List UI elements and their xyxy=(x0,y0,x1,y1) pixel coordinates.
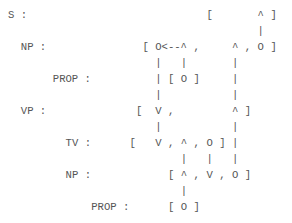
node-label: PROP : xyxy=(53,71,91,87)
feature-glyph: ] xyxy=(270,39,276,55)
feature-glyph: [ xyxy=(168,199,174,215)
connector-line: | xyxy=(232,119,238,135)
feature-glyph: [ xyxy=(130,135,136,151)
tree-node-row: PROP :|[O]| xyxy=(0,71,292,87)
tree-node-row: TV :[V,^,O]| xyxy=(0,135,292,151)
feature-glyph: O xyxy=(181,71,187,87)
connector-row: | xyxy=(0,183,292,199)
feature-glyph: [ xyxy=(136,103,142,119)
connector-line: | xyxy=(181,151,187,167)
feature-glyph: V xyxy=(206,167,212,183)
feature-glyph: ^ xyxy=(232,39,238,55)
feature-glyph: V xyxy=(155,103,161,119)
feature-glyph: ] xyxy=(270,7,276,23)
connector-row: ||| xyxy=(0,55,292,71)
tree-node-row: PROP :[O] xyxy=(0,199,292,215)
feature-glyph: , xyxy=(168,103,174,119)
feature-glyph: , xyxy=(168,135,174,151)
feature-glyph: O xyxy=(258,39,264,55)
connector-line: | xyxy=(232,151,238,167)
feature-glyph: V xyxy=(155,135,161,151)
node-label: NP : xyxy=(21,39,46,55)
node-label: NP : xyxy=(66,167,91,183)
node-label: VP : xyxy=(21,103,46,119)
feature-glyph: ] xyxy=(194,199,200,215)
feature-glyph: [ xyxy=(142,39,148,55)
feature-glyph: ] xyxy=(194,71,200,87)
feature-glyph: O xyxy=(181,199,187,215)
connector-line: | xyxy=(258,23,264,39)
connector-row: || xyxy=(0,119,292,135)
connector-row: | xyxy=(0,23,292,39)
tree-node-row: NP :[O<--^,^,O] xyxy=(0,39,292,55)
connector-line: | xyxy=(155,71,161,87)
feature-glyph: O xyxy=(232,167,238,183)
feature-glyph: ] xyxy=(245,167,251,183)
feature-glyph: , xyxy=(194,39,200,55)
node-label: TV : xyxy=(66,135,91,151)
feature-glyph: [ xyxy=(168,71,174,87)
connector-line: | xyxy=(206,151,212,167)
connector-line: | xyxy=(155,55,161,71)
connector-line: | xyxy=(181,55,187,71)
tree-node-row: S :[^] xyxy=(0,7,292,23)
connector-line: | xyxy=(232,87,238,103)
feature-glyph: , xyxy=(194,167,200,183)
parse-tree-diagram: S :[^]|NP :[O<--^,^,O]|||PROP :|[O]|||VP… xyxy=(0,0,292,223)
connector-line: | xyxy=(232,71,238,87)
feature-glyph: O<--^ xyxy=(155,39,187,55)
feature-glyph: ] xyxy=(245,103,251,119)
connector-row: ||| xyxy=(0,151,292,167)
node-label: PROP : xyxy=(91,199,129,215)
feature-glyph: ] xyxy=(219,135,225,151)
feature-glyph: ^ xyxy=(181,135,187,151)
feature-glyph: [ xyxy=(168,167,174,183)
connector-row: || xyxy=(0,87,292,103)
connector-line: | xyxy=(232,55,238,71)
connector-line: | xyxy=(155,87,161,103)
feature-glyph: , xyxy=(245,39,251,55)
feature-glyph: , xyxy=(194,135,200,151)
connector-line: | xyxy=(232,135,238,151)
feature-glyph: [ xyxy=(206,7,212,23)
feature-glyph: ^ xyxy=(258,7,264,23)
feature-glyph: ^ xyxy=(181,167,187,183)
tree-node-row: VP :[V,^] xyxy=(0,103,292,119)
connector-line: | xyxy=(181,183,187,199)
feature-glyph: O xyxy=(206,135,212,151)
feature-glyph: , xyxy=(219,167,225,183)
tree-node-row: NP :[^,V,O] xyxy=(0,167,292,183)
feature-glyph: ^ xyxy=(232,103,238,119)
connector-line: | xyxy=(155,119,161,135)
node-label: S : xyxy=(8,7,27,23)
